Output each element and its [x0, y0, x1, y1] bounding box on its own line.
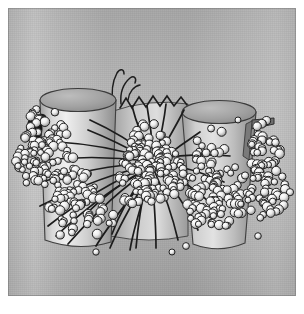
sphere — [144, 196, 150, 202]
sphere — [136, 187, 142, 193]
sphere — [37, 138, 45, 146]
sphere — [261, 188, 269, 196]
sphere — [213, 177, 220, 184]
right-flange-web — [243, 121, 252, 160]
sphere — [134, 177, 144, 187]
sphere — [248, 188, 254, 194]
sphere — [60, 201, 70, 211]
sphere — [47, 129, 55, 137]
sphere — [211, 149, 219, 157]
sphere — [197, 216, 206, 225]
sphere — [193, 151, 201, 159]
sphere — [71, 166, 80, 175]
sphere — [211, 183, 218, 190]
sphere — [151, 178, 159, 186]
sphere — [55, 187, 63, 195]
sphere — [212, 197, 220, 205]
sphere — [147, 175, 154, 182]
sphere — [97, 214, 106, 223]
sphere — [212, 178, 219, 185]
sphere — [253, 172, 262, 181]
sphere — [178, 159, 185, 166]
sphere — [247, 206, 255, 214]
sphere — [257, 214, 264, 221]
sphere — [198, 212, 206, 220]
sphere — [189, 205, 197, 213]
sphere — [47, 139, 53, 145]
sphere — [222, 222, 229, 229]
sphere — [109, 219, 117, 227]
sphere — [30, 147, 38, 155]
sphere — [238, 174, 247, 183]
sphere — [274, 146, 282, 154]
sphere — [210, 181, 217, 188]
sphere — [263, 185, 270, 192]
sphere — [157, 159, 164, 166]
sphere — [228, 170, 234, 176]
sphere — [214, 196, 222, 204]
sphere — [224, 222, 230, 228]
sphere — [96, 208, 105, 217]
sphere — [265, 162, 271, 168]
sphere — [63, 176, 72, 185]
sphere — [145, 134, 154, 143]
sphere — [245, 197, 251, 203]
sphere — [135, 141, 141, 147]
sphere — [203, 206, 211, 214]
sphere — [209, 184, 216, 191]
figure-root — [0, 0, 304, 314]
sphere — [98, 203, 106, 211]
sphere — [30, 167, 38, 175]
sphere — [152, 162, 162, 172]
sphere — [54, 158, 61, 165]
sphere — [209, 196, 217, 204]
sphere — [145, 192, 152, 199]
sphere — [85, 213, 94, 222]
sphere — [50, 177, 57, 184]
sphere — [65, 189, 71, 195]
sphere — [50, 174, 57, 181]
sphere — [249, 141, 255, 147]
sphere — [78, 201, 85, 208]
sphere — [250, 175, 256, 181]
sphere — [92, 229, 102, 239]
sphere — [271, 179, 277, 185]
sphere — [125, 196, 134, 205]
sphere — [220, 145, 229, 154]
sphere — [225, 217, 234, 226]
sphere — [143, 146, 151, 154]
sphere — [217, 127, 226, 136]
sphere — [131, 166, 137, 172]
sphere — [207, 160, 216, 169]
sphere — [158, 159, 164, 165]
sphere — [33, 106, 41, 114]
sphere — [237, 208, 247, 218]
sphere — [158, 153, 166, 161]
sphere — [266, 188, 273, 195]
sphere — [204, 175, 210, 181]
sphere — [140, 139, 146, 145]
stray-sphere — [169, 249, 175, 255]
sphere — [242, 172, 249, 179]
sphere — [215, 200, 222, 207]
sphere — [93, 217, 102, 226]
sphere — [258, 162, 265, 169]
sphere — [199, 143, 206, 150]
sphere — [268, 160, 276, 168]
sphere — [170, 190, 179, 199]
sphere — [251, 135, 258, 142]
sphere — [162, 157, 171, 166]
sphere — [179, 170, 187, 178]
sphere — [79, 173, 88, 182]
sphere — [162, 145, 170, 153]
sphere — [58, 142, 67, 151]
sphere — [196, 183, 205, 192]
sphere — [208, 221, 215, 228]
sphere — [213, 186, 222, 195]
stray-sphere — [22, 172, 29, 179]
sphere — [34, 176, 43, 185]
sphere — [187, 208, 194, 215]
sphere — [40, 163, 48, 171]
sphere — [174, 158, 182, 166]
sphere — [29, 172, 38, 181]
